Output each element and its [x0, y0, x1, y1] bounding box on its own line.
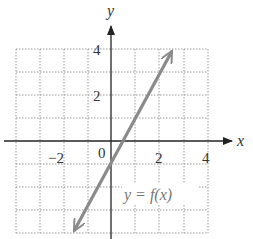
- x-tick-neg2: −2: [48, 150, 64, 166]
- y-tick-2: 2: [93, 88, 101, 104]
- origin-label: 0: [98, 145, 106, 161]
- x-tick-2: 2: [155, 150, 163, 166]
- y-axis-label: y: [105, 2, 115, 20]
- x-axis-label: x: [236, 132, 244, 149]
- function-label: y = f(x): [122, 186, 172, 204]
- function-graph: x y 4 2 0 −2 2 4 y = f(x): [0, 0, 253, 239]
- x-tick-4: 4: [202, 150, 210, 166]
- y-tick-4: 4: [93, 42, 101, 58]
